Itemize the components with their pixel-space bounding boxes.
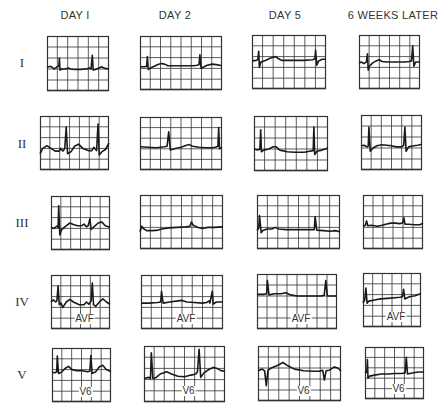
lead-label: AVF — [74, 314, 95, 324]
ecg-grid — [363, 195, 423, 249]
ecg-panel: V6 — [365, 347, 424, 399]
ecg-panel — [140, 195, 223, 249]
ecg-grid — [361, 115, 422, 170]
ecg-grid — [359, 35, 420, 89]
column-header: DAY 2 — [159, 9, 191, 21]
ecg-grid — [140, 36, 222, 90]
ecg-trace — [254, 127, 328, 155]
ecg-grid — [140, 195, 223, 249]
ecg-panel — [254, 116, 328, 171]
ecg-panel — [47, 36, 109, 91]
ecg-panel — [140, 117, 222, 170]
lead-label: V6 — [78, 387, 92, 397]
ecg-panel — [252, 35, 326, 89]
ecg-panel — [363, 195, 423, 249]
lead-label: V6 — [181, 386, 195, 396]
ecg-panel: V6 — [144, 346, 225, 402]
lead-label: V6 — [296, 386, 310, 396]
row-label: III — [16, 215, 29, 231]
ecg-panel: AVF — [141, 275, 223, 329]
column-header: 6 WEEKS LATER — [348, 9, 438, 21]
ecg-panel: V6 — [258, 346, 341, 401]
row-label: V — [17, 367, 26, 383]
ecg-panel: V6 — [52, 348, 111, 402]
ecg-trace — [40, 124, 109, 155]
ecg-grid — [140, 117, 222, 170]
ecg-panel — [257, 195, 340, 249]
row-label: I — [20, 55, 24, 71]
ecg-grid — [252, 35, 326, 89]
lead-label: AVF — [291, 314, 312, 324]
lead-label: V6 — [391, 384, 405, 394]
lead-label: AVF — [176, 314, 197, 324]
ecg-panel — [140, 36, 222, 90]
row-label: II — [18, 136, 27, 152]
row-label: IV — [15, 294, 29, 310]
lead-label: AVF — [386, 312, 407, 322]
ecg-grid — [47, 36, 109, 91]
ecg-panel — [359, 35, 420, 89]
ecg-grid — [257, 195, 340, 249]
ecg-panel: AVF — [51, 275, 110, 329]
column-header: DAY 5 — [269, 9, 301, 21]
ecg-grid — [40, 116, 109, 170]
ecg-panel — [51, 196, 110, 250]
ecg-panel: AVF — [257, 274, 337, 329]
ecg-panel — [40, 116, 109, 170]
ecg-grid — [51, 196, 110, 250]
ecg-trace — [252, 50, 326, 67]
ecg-panel: AVF — [363, 273, 421, 327]
column-header: DAY I — [60, 9, 89, 21]
ecg-panel — [361, 115, 422, 170]
ecg-grid — [254, 116, 328, 171]
